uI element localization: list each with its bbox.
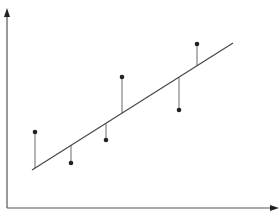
data-point <box>120 75 125 80</box>
regression-chart <box>0 0 280 218</box>
data-point <box>104 138 109 143</box>
data-points <box>33 42 200 166</box>
residual-lines <box>35 44 197 168</box>
y-axis-arrow-icon <box>4 8 10 17</box>
data-point <box>195 42 200 47</box>
axes <box>4 8 279 211</box>
data-point <box>69 161 74 166</box>
x-axis-arrow-icon <box>270 205 279 211</box>
data-point <box>177 108 182 113</box>
data-point <box>33 130 38 135</box>
regression-line <box>32 43 233 170</box>
